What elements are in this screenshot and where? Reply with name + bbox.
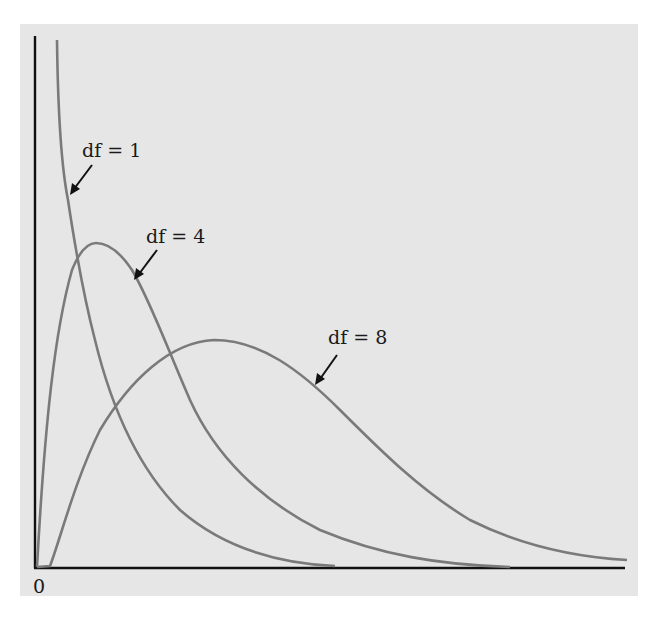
curve-df-1 xyxy=(57,40,335,566)
chi-square-chart: df = 1 df = 4 df = 8 0 xyxy=(0,0,656,629)
arrow-df-8 xyxy=(320,355,337,379)
arrow-df-4 xyxy=(139,250,157,274)
arrowhead-df-1 xyxy=(70,183,80,195)
x-origin-label: 0 xyxy=(33,575,45,597)
curve-df-8 xyxy=(37,340,627,567)
curve-df-4 xyxy=(37,243,510,567)
arrow-df-1 xyxy=(74,165,92,189)
label-df-8: df = 8 xyxy=(328,326,387,348)
label-df-4: df = 4 xyxy=(146,225,205,247)
label-df-1: df = 1 xyxy=(82,139,141,161)
